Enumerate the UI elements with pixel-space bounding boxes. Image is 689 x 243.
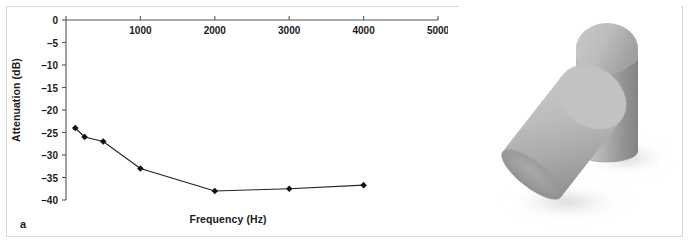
earplug-illustration xyxy=(459,6,681,236)
y-tick-labels: 0–5–10–15–20–25–30–35–40 xyxy=(41,15,58,206)
svg-text:–25: –25 xyxy=(41,128,58,139)
data-series-line xyxy=(75,128,363,191)
svg-text:4000: 4000 xyxy=(352,25,375,36)
earplug-photograph xyxy=(459,6,681,236)
figure-container: Attenuation (dB) Frequency (Hz) a 100020… xyxy=(0,0,689,243)
svg-text:–10: –10 xyxy=(41,60,58,71)
svg-text:–5: –5 xyxy=(47,38,59,49)
x-tick-labels: 10002000300040005000 xyxy=(129,25,448,36)
svg-text:2000: 2000 xyxy=(204,25,227,36)
svg-text:–35: –35 xyxy=(41,173,58,184)
svg-text:–15: –15 xyxy=(41,83,58,94)
svg-text:–30: –30 xyxy=(41,150,58,161)
svg-text:3000: 3000 xyxy=(278,25,301,36)
chart-axes xyxy=(62,16,438,200)
data-point-markers xyxy=(72,125,367,195)
svg-text:1000: 1000 xyxy=(129,25,152,36)
svg-text:5000: 5000 xyxy=(427,25,448,36)
svg-text:–40: –40 xyxy=(41,195,58,206)
attenuation-line-chart: 10002000300040005000 0–5–10–15–20–25–30–… xyxy=(0,0,448,243)
panel-b-photo: b xyxy=(448,0,689,243)
svg-text:–20: –20 xyxy=(41,105,58,116)
panel-a-chart: Attenuation (dB) Frequency (Hz) a 100020… xyxy=(0,0,448,243)
svg-text:0: 0 xyxy=(52,15,58,26)
